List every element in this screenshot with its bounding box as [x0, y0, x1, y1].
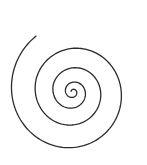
spiral-figure	[0, 0, 147, 165]
spiral-curve	[11, 36, 121, 148]
